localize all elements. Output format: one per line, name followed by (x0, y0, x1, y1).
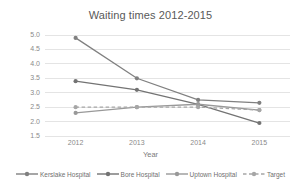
data-point-marker (74, 111, 78, 115)
x-tick-label: 2013 (115, 139, 159, 146)
series-kerslake-hospital (74, 36, 262, 105)
data-point-marker (135, 76, 139, 80)
legend-label: Uptown Hospital (190, 171, 237, 178)
legend-item-uptown-hospital[interactable]: Uptown Hospital (166, 170, 237, 179)
x-tick-label: 2012 (54, 139, 98, 146)
data-point-marker (196, 98, 200, 102)
data-point-marker (135, 88, 139, 92)
legend-item-bore-hospital[interactable]: Bore Hospital (97, 170, 160, 179)
data-point-marker (135, 105, 139, 109)
x-tick-label: 2015 (237, 139, 281, 146)
legend-label: Target (267, 171, 285, 178)
y-tick-label: 3.5 (18, 74, 40, 81)
data-point-marker (257, 101, 261, 105)
y-tick-label: 5.0 (18, 31, 40, 38)
legend-key-icon (243, 170, 265, 179)
legend-label: Bore Hospital (121, 171, 160, 178)
data-point-marker (196, 105, 200, 109)
data-point-marker (74, 105, 78, 109)
y-tick-label: 3.0 (18, 89, 40, 96)
y-tick-label: 2.0 (18, 118, 40, 125)
chart-legend: Kerslake HospitalBore HospitalUptown Hos… (0, 170, 301, 179)
legend-key-icon (97, 170, 119, 179)
y-tick-label: 1.5 (18, 132, 40, 139)
y-tick-label: 2.5 (18, 103, 40, 110)
plot-area (0, 0, 301, 196)
waiting-times-line-chart: Waiting times 2012-2015 Number of hours … (0, 0, 301, 196)
legend-item-kerslake-hospital[interactable]: Kerslake Hospital (16, 170, 91, 179)
y-tick-label: 4.5 (18, 45, 40, 52)
legend-label: Kerslake Hospital (40, 171, 91, 178)
data-point-marker (74, 79, 78, 83)
legend-key-icon (166, 170, 188, 179)
y-tick-label: 4.0 (18, 60, 40, 67)
data-point-marker (74, 36, 78, 40)
data-point-marker (257, 108, 261, 112)
legend-item-target[interactable]: Target (243, 170, 285, 179)
data-point-marker (257, 121, 261, 125)
legend-key-icon (16, 170, 38, 179)
x-tick-label: 2014 (176, 139, 220, 146)
